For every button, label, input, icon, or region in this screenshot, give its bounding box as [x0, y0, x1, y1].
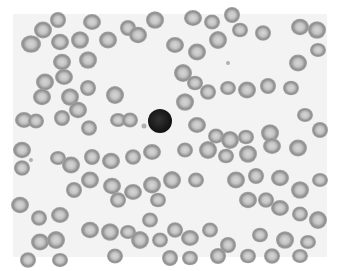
red-blood-cell: [271, 200, 289, 216]
red-blood-cell: [240, 249, 256, 264]
red-blood-cell: [50, 12, 66, 28]
red-blood-cell: [184, 10, 202, 26]
red-blood-cell: [255, 25, 271, 41]
red-blood-cell: [143, 177, 161, 194]
red-blood-cell: [28, 113, 44, 128]
red-blood-cell: [34, 22, 52, 39]
red-blood-cell: [297, 108, 313, 122]
red-blood-cell: [291, 181, 309, 198]
red-blood-cell: [55, 69, 73, 85]
red-blood-cell: [289, 55, 307, 72]
red-blood-cell: [308, 21, 326, 38]
red-blood-cell: [52, 253, 68, 267]
red-blood-cell: [163, 171, 181, 189]
red-blood-cell: [129, 27, 147, 43]
red-blood-cell: [142, 212, 158, 227]
red-blood-cell: [252, 228, 268, 243]
red-blood-cell: [81, 172, 99, 189]
red-blood-cell: [71, 31, 89, 48]
red-blood-cell: [312, 122, 328, 138]
red-blood-cell: [188, 44, 206, 61]
red-blood-cell: [20, 252, 36, 268]
red-blood-cell: [263, 138, 281, 154]
red-blood-cell: [271, 170, 289, 186]
red-blood-cell: [264, 248, 280, 264]
red-blood-cell: [110, 192, 126, 208]
red-blood-cell: [31, 234, 49, 251]
red-blood-cell: [66, 182, 82, 198]
red-blood-cell: [204, 14, 220, 29]
red-blood-cell: [84, 149, 100, 165]
red-blood-cell: [238, 82, 256, 99]
red-blood-cell: [81, 222, 99, 238]
platelet: [142, 124, 147, 129]
red-blood-cell: [182, 251, 198, 266]
red-blood-cell: [36, 74, 54, 91]
red-blood-cell: [51, 207, 69, 223]
red-blood-cell: [188, 117, 206, 133]
red-blood-cell: [143, 144, 161, 160]
red-blood-cell: [99, 32, 117, 49]
red-blood-cell: [176, 93, 194, 110]
red-blood-cell: [166, 37, 184, 53]
red-blood-cell: [232, 23, 248, 38]
red-blood-cell: [221, 131, 239, 149]
red-blood-cell: [312, 173, 328, 187]
red-blood-cell: [79, 51, 97, 68]
red-blood-cell: [31, 210, 47, 226]
red-blood-cell: [124, 184, 142, 200]
micrograph-frame: Field of red blood cells with a single d…: [0, 0, 343, 271]
red-blood-cell: [248, 168, 264, 184]
red-blood-cell: [106, 86, 124, 104]
red-blood-cell: [239, 192, 257, 208]
red-blood-cell: [188, 172, 204, 187]
red-blood-cell: [131, 231, 149, 249]
red-blood-cell: [162, 250, 178, 266]
red-blood-cell: [200, 84, 216, 100]
red-blood-cell: [309, 211, 327, 229]
red-blood-cell: [292, 206, 308, 221]
red-blood-cell: [107, 248, 123, 263]
red-blood-cell: [224, 7, 240, 23]
red-blood-cell: [122, 112, 138, 127]
red-blood-cell: [102, 153, 120, 169]
red-blood-cell: [220, 81, 236, 95]
red-blood-cell: [260, 78, 276, 94]
red-blood-cell: [276, 231, 294, 248]
platelet: [226, 61, 230, 65]
red-blood-cell: [53, 54, 71, 70]
red-blood-cell: [81, 120, 97, 136]
red-blood-cell: [292, 249, 308, 263]
red-blood-cell: [218, 149, 234, 164]
red-blood-cell: [199, 141, 217, 159]
red-blood-cell: [51, 34, 69, 50]
red-blood-cell: [209, 31, 227, 49]
platelet: [29, 158, 33, 162]
blood-smear-image: [0, 0, 343, 271]
red-blood-cell: [202, 222, 218, 237]
red-blood-cell: [289, 140, 307, 157]
red-blood-cell: [80, 80, 96, 96]
red-blood-cell: [238, 130, 254, 145]
red-blood-cell: [291, 19, 309, 35]
red-blood-cell: [21, 35, 41, 53]
red-blood-cell: [146, 11, 164, 28]
lymphocyte: [148, 109, 172, 133]
red-blood-cell: [103, 178, 121, 194]
red-blood-cell: [83, 14, 101, 30]
red-blood-cell: [150, 193, 166, 208]
red-blood-cell: [210, 248, 226, 264]
red-blood-cell: [33, 89, 51, 105]
red-blood-cell: [69, 102, 87, 118]
red-blood-cell: [62, 157, 80, 174]
red-blood-cell: [177, 142, 193, 157]
red-blood-cell: [239, 145, 257, 162]
red-blood-cell: [47, 231, 65, 249]
red-blood-cell: [54, 110, 70, 126]
red-blood-cell: [181, 230, 199, 246]
red-blood-cell: [227, 172, 245, 189]
red-blood-cell: [300, 235, 316, 249]
red-blood-cell: [310, 43, 326, 57]
red-blood-cell: [187, 76, 203, 91]
red-blood-cell: [101, 223, 119, 240]
